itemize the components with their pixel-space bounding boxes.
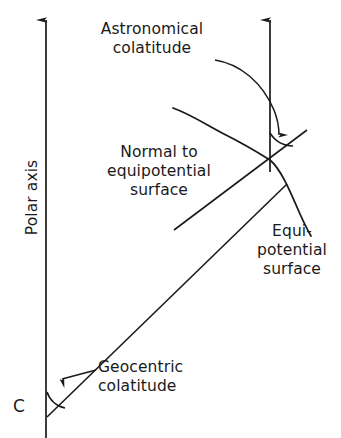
normal-to-equipotential-surface-label: Normal to equipotential surface (100, 143, 218, 200)
astronomical-colatitude-label: Astronomical colatitude (84, 20, 220, 58)
geocentric-colatitude-angle-arc (47, 392, 65, 408)
polar-axis-label: Polar axis (23, 143, 42, 251)
geocentric-colatitude-label: Geocentric colatitude (98, 358, 218, 396)
equipotential-surface-label: Equi- potential surface (252, 222, 332, 279)
colatitude-diagram: Astronomical colatitude Normal to equipo… (0, 0, 341, 438)
center-point-label: C (13, 396, 35, 417)
